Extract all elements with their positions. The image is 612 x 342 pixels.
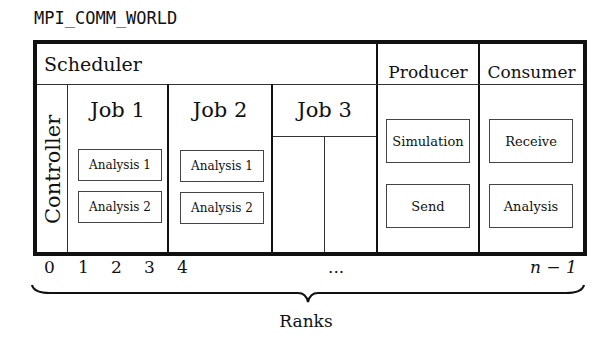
- job-2-label: Job 2: [169, 98, 271, 122]
- rank-1: 1: [78, 257, 89, 277]
- scheduler-label: Scheduler: [44, 53, 142, 75]
- pc-header-divider: [376, 84, 583, 85]
- rank-2: 2: [111, 257, 122, 277]
- job-2-task-1: Analysis 1: [180, 150, 264, 182]
- job-1-task-2: Analysis 2: [78, 191, 162, 223]
- job-2-task-2: Analysis 2: [180, 192, 264, 224]
- rank-last: n − 1: [530, 257, 577, 277]
- rank-ellipsis: ...: [328, 257, 344, 277]
- rank-3: 3: [144, 257, 155, 277]
- mpi-world-box: Scheduler Controller Job 1 Analysis 1 An…: [33, 40, 587, 256]
- producer-label: Producer: [378, 62, 478, 82]
- consumer-task-receive: Receive: [489, 119, 573, 163]
- producer-task-simulation: Simulation: [386, 119, 470, 163]
- rank-0: 0: [44, 257, 55, 277]
- ranks-brace-icon: [30, 283, 586, 305]
- job-1-label: Job 1: [68, 98, 167, 122]
- producer-task-send: Send: [386, 184, 470, 228]
- job-3-split: [324, 136, 325, 252]
- controller-label: Controller: [41, 108, 65, 224]
- consumer-label: Consumer: [480, 62, 583, 82]
- consumer-task-analysis: Analysis: [489, 184, 573, 228]
- scheduler-divider: [37, 84, 376, 85]
- job-3-label: Job 3: [273, 98, 376, 122]
- job-1-task-1: Analysis 1: [78, 149, 162, 181]
- ranks-caption: Ranks: [0, 311, 612, 331]
- communicator-title: MPI_COMM_WORLD: [34, 8, 177, 28]
- rank-4: 4: [177, 257, 188, 277]
